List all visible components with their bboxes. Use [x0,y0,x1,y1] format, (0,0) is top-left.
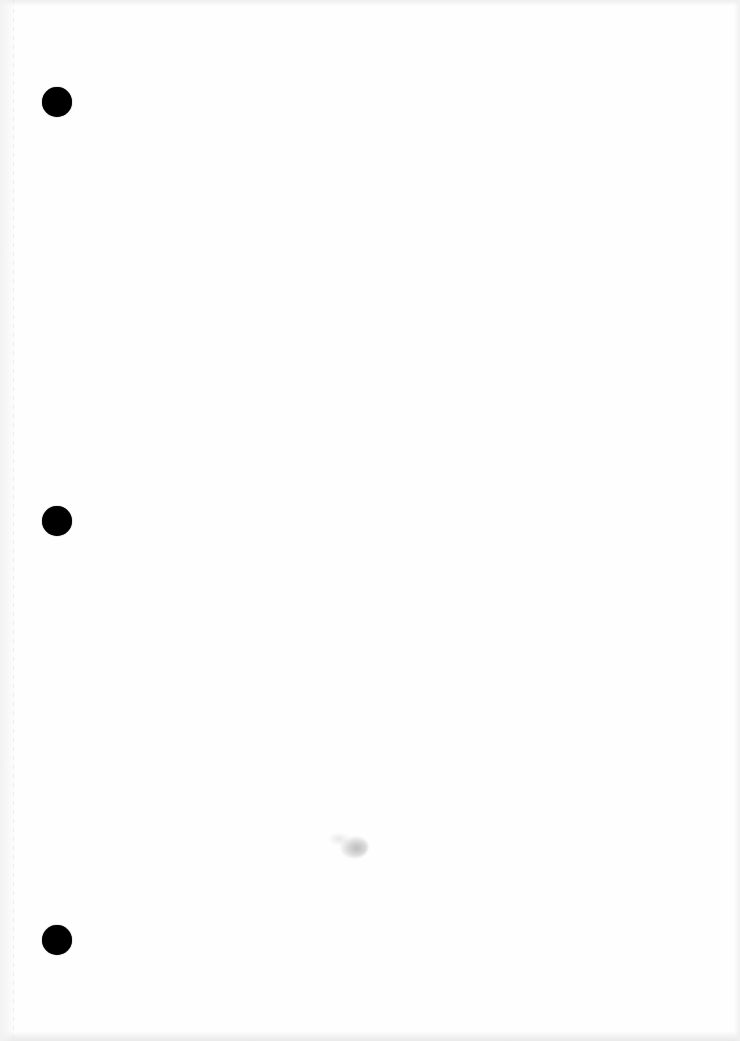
punch-hole-top [42,87,72,117]
page-edge-bottom [0,1031,740,1041]
page-edge-top [0,0,740,6]
punch-hole-middle [42,506,72,536]
scanned-page [0,0,740,1041]
page-edge-right [734,0,740,1041]
smudge-mark [340,836,368,858]
page-fold-line [13,0,14,1041]
punch-hole-bottom [42,925,72,955]
